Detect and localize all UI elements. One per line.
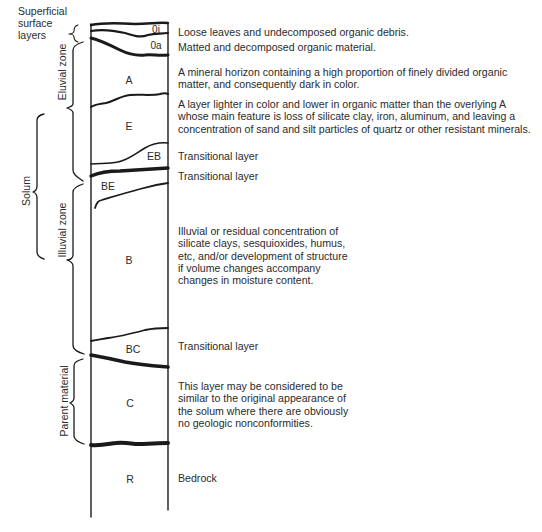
bracket-solum [33,114,44,259]
boundary-c-r [91,443,168,446]
boundary-eb-be [91,168,168,176]
label-parent-material: Parent material [58,365,70,436]
boundary-a-e [91,93,168,107]
bracket-illuvial [67,184,84,354]
description-line: Transitional layer [178,170,258,182]
description-line: no geologic nonconformities. [178,417,348,429]
description-line: the solum where there are obviously [178,405,348,417]
description-eb: Transitional layer [178,150,258,162]
description-line: whose main feature is loss of silicate c… [178,110,531,122]
description-line: Transitional layer [178,150,258,162]
description-line: A mineral horizon containing a high prop… [178,66,507,78]
horizon-code-eb: EB [139,150,169,162]
description-a: A mineral horizon containing a high prop… [178,66,507,91]
horizon-code-r: R [115,473,145,485]
horizon-code-c: C [115,397,145,409]
bracket-parent-material [70,359,84,444]
description-line: matter, and consequently dark in color. [178,78,507,90]
horizon-code-a: A [114,74,144,86]
description-line: if volume changes accompany [178,262,348,274]
horizon-code-b: B [114,254,144,266]
description-line: This layer may be considered to be [178,380,348,392]
description-0i: Loose leaves and undecomposed organic de… [178,26,409,38]
boundary-bc-c [91,355,168,367]
horizon-code-0i: 0i [141,24,171,35]
description-line: A layer lighter in color and lower in or… [178,98,531,110]
label-eluvial-zone: Eluvial zone [56,44,68,101]
description-e: A layer lighter in color and lower in or… [178,98,531,135]
bracket-superficial [69,25,78,42]
label-illuvial-zone: Illuvial zone [56,203,68,258]
horizon-code-0a: 0a [141,40,171,51]
label-superficial-line-1: Superficial [18,5,67,17]
label-solum: Solum [20,176,32,206]
description-line: etc, and/or development of structure [178,250,348,262]
description-line: Illuvial or residual concentration of [178,225,348,237]
description-line: Transitional layer [178,340,258,352]
description-line: similar to the original appearance of [178,392,348,404]
label-superficial-surface-layers: Superficial surface layers [18,5,67,41]
bracket-eluvial [67,42,83,181]
horizon-code-bc: BC [118,343,148,355]
description-line: Matted and decomposed organic material. [178,41,376,53]
description-c: This layer may be considered to be simil… [178,380,348,429]
description-be: Transitional layer [178,170,258,182]
description-line: silicate clays, sesquioxides, humus, [178,237,348,249]
horizon-code-be: BE [93,180,123,192]
horizon-code-e: E [114,120,144,132]
label-superficial-line-2: surface [18,17,67,29]
description-line: concentration of sand and silt particles… [178,123,531,135]
description-0a: Matted and decomposed organic material. [178,41,376,53]
description-b: Illuvial or residual concentration of si… [178,225,348,286]
description-r: Bedrock [178,472,217,484]
label-superficial-line-3: layers [18,29,67,41]
soil-profile-diagram: Superficial surface layers Eluvial zone … [0,0,542,532]
boundary-b-bc [91,328,168,341]
description-line: changes in moisture content. [178,274,348,286]
description-line: Loose leaves and undecomposed organic de… [178,26,409,38]
description-line: Bedrock [178,472,217,484]
description-bc: Transitional layer [178,340,258,352]
